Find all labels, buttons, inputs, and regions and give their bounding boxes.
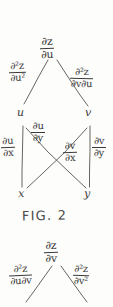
fig1-edge-label-left: ∂²z ∂u² bbox=[9, 61, 27, 84]
fig1-edge-label-right: ∂²z ∂v∂u bbox=[70, 67, 94, 90]
fig1-root-node: ∂z ∂u bbox=[40, 36, 55, 61]
fig1-edge-label-dv-dy: ∂v ∂y bbox=[92, 136, 106, 159]
edge-root-to-u bbox=[24, 60, 48, 104]
fraction-numerator: ∂u bbox=[32, 121, 45, 131]
fraction-denominator: ∂x bbox=[64, 153, 76, 163]
fig2-edge-label-right: ∂²z ∂v² bbox=[73, 264, 89, 287]
fig2-root-node: ∂z ∂v bbox=[44, 240, 59, 265]
fraction-numerator: ∂v bbox=[93, 136, 105, 146]
fig1-edge-label-dv-dx: ∂v ∂x bbox=[63, 141, 77, 164]
fig1-edge-label-du-dy: ∂u ∂y bbox=[31, 121, 45, 144]
fig2-edge-label-left: ∂²z ∂u∂v bbox=[9, 264, 33, 287]
fraction-denominator: ∂y bbox=[93, 148, 105, 158]
fraction-numerator: ∂z bbox=[44, 240, 57, 251]
fraction-dv-dy: ∂v ∂y bbox=[92, 136, 106, 159]
fraction-denominator: ∂y bbox=[32, 133, 44, 143]
edge-v-to-y bbox=[90, 126, 91, 187]
fraction-denominator: ∂u∂v bbox=[9, 276, 33, 287]
fraction-numerator: ∂u bbox=[1, 136, 14, 147]
fraction-numerator: ∂²z bbox=[12, 264, 28, 275]
fraction-dz-dv: ∂z ∂v bbox=[44, 240, 59, 265]
fraction-dz-du: ∂z ∂u bbox=[40, 36, 55, 61]
fraction-denominator: ∂v∂u bbox=[70, 79, 93, 90]
fraction-numerator: ∂z bbox=[40, 36, 53, 47]
fig1-edge-label-du-dx: ∂u ∂x bbox=[1, 136, 16, 159]
fraction-numerator: ∂²z bbox=[9, 61, 25, 72]
edge-u-to-x bbox=[22, 126, 23, 187]
fraction-denominator: ∂u² bbox=[9, 73, 26, 84]
fraction-d2z-dvdu: ∂²z ∂v∂u bbox=[70, 67, 94, 90]
fraction-du-dy: ∂u ∂y bbox=[31, 121, 45, 144]
notebook-page: ∂z ∂u ∂²z ∂u² ∂²z ∂v∂u u v ∂u ∂x bbox=[0, 0, 113, 307]
fraction-du-dx: ∂u ∂x bbox=[1, 136, 16, 159]
fraction-denominator: ∂v bbox=[44, 253, 58, 264]
fig1-node-v: v bbox=[85, 107, 91, 118]
fraction-d2z-dv2: ∂²z ∂v² bbox=[73, 264, 89, 287]
fraction-dv-dx: ∂v ∂x bbox=[63, 141, 77, 164]
fig1-node-x: x bbox=[18, 188, 25, 199]
fraction-numerator: ∂²z bbox=[73, 264, 89, 274]
fraction-denominator: ∂u bbox=[40, 49, 54, 61]
fraction-d2z-du2: ∂²z ∂u² bbox=[9, 61, 27, 84]
fraction-numerator: ∂v bbox=[64, 141, 76, 151]
fig1-node-y: y bbox=[84, 188, 90, 199]
fig1-caption: FIG. 2 bbox=[22, 209, 67, 223]
fraction-denominator: ∂v² bbox=[73, 276, 89, 286]
fig1-node-u: u bbox=[17, 107, 24, 118]
fraction-d2z-dudv: ∂²z ∂u∂v bbox=[9, 264, 33, 287]
fraction-numerator: ∂²z bbox=[74, 67, 90, 77]
fraction-denominator: ∂x bbox=[2, 148, 15, 159]
